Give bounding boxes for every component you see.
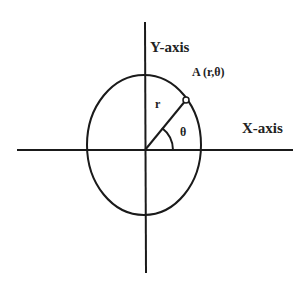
angle-arc [162,128,173,150]
x-axis-label: X-axis [242,120,283,136]
radius-label: r [155,97,161,111]
angle-label: θ [180,125,186,139]
y-axis-label: Y-axis [150,39,190,55]
circle [87,75,201,215]
point-a-marker [183,97,189,103]
point-a-label: A (r,θ) [192,65,224,79]
polar-diagram: Y-axis X-axis A (r,θ) r θ [0,0,306,285]
